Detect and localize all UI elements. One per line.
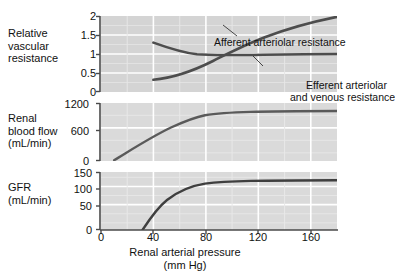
plot-gfr bbox=[101, 172, 337, 230]
panel-gfr bbox=[101, 172, 337, 230]
row-label-line: GFR bbox=[8, 181, 51, 194]
ytick-rbf-600: 600 bbox=[55, 126, 89, 137]
ytick-resistance-0p5: 0.5 bbox=[62, 68, 96, 79]
ytick-gfr-150: 150 bbox=[58, 168, 92, 179]
xaxis-caption-line1: Renal arterial pressure bbox=[14, 246, 356, 259]
row-label-renal-blood-flow: Renal blood flow (mL/min) bbox=[8, 112, 58, 150]
annotation-efferent-arteriolar-line2: and venous resistance bbox=[290, 91, 395, 103]
ytick-gfr-50: 50 bbox=[58, 201, 92, 212]
ytick-gfr-100: 100 bbox=[58, 184, 92, 195]
row-label-line: vascular bbox=[8, 40, 58, 53]
row-label-gfr: GFR (mL/min) bbox=[8, 181, 51, 206]
panel-relative-vascular-resistance: Afferent arteriolar resistance Efferent … bbox=[101, 16, 337, 92]
plot-resistance bbox=[101, 16, 337, 92]
ytick-resistance-1p5: 1.5 bbox=[62, 30, 96, 41]
row-label-line: (mL/min) bbox=[8, 137, 58, 150]
row-label-line: (mL/min) bbox=[8, 194, 51, 207]
xtick-160: 160 bbox=[296, 232, 326, 243]
annotation-afferent-arteriolar-resistance: Afferent arteriolar resistance bbox=[214, 36, 346, 48]
ytick-resistance-2: 2 bbox=[62, 11, 96, 22]
row-label-line: resistance bbox=[8, 52, 58, 65]
row-label-line: Relative bbox=[8, 27, 58, 40]
plot-renal-blood-flow bbox=[101, 103, 337, 161]
ytick-rbf-0: 0 bbox=[55, 156, 89, 167]
panel-renal-blood-flow bbox=[101, 103, 337, 161]
xaxis-caption-line2: (mm Hg) bbox=[14, 259, 356, 272]
annotation-efferent-arteriolar-line1: Efferent arteriolar bbox=[306, 79, 387, 91]
xtick-0: 0 bbox=[86, 232, 116, 243]
ytick-resistance-1: 1 bbox=[62, 49, 96, 60]
xtick-40: 40 bbox=[138, 232, 168, 243]
xtick-80: 80 bbox=[191, 232, 221, 243]
row-label-line: blood flow bbox=[8, 125, 58, 138]
xtick-120: 120 bbox=[243, 232, 273, 243]
row-label-relative-vascular-resistance: Relative vascular resistance bbox=[8, 27, 58, 65]
row-label-line: Renal bbox=[8, 112, 58, 125]
ytick-resistance-0: 0 bbox=[62, 87, 96, 98]
ytick-rbf-1200: 1200 bbox=[55, 99, 89, 110]
